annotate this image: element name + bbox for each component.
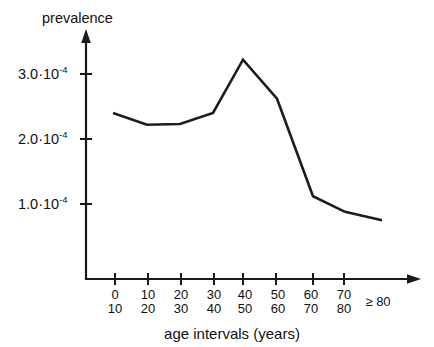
x-tick-labels: 0 10 10 20 20 30 30 40 40 50 50 60 60 70… — [108, 287, 391, 316]
x-tick-label-7-bottom: 80 — [337, 301, 351, 316]
x-tick-label-1-bottom: 20 — [141, 301, 155, 316]
x-tick-label-0-bottom: 10 — [108, 301, 122, 316]
x-tick-label-1-top: 10 — [141, 287, 155, 302]
x-axis — [86, 274, 421, 284]
x-tick-label-0-top: 0 — [111, 287, 118, 302]
x-tick-label-5-bottom: 60 — [271, 301, 285, 316]
x-axis-arrow-icon — [407, 274, 421, 284]
x-tick-label-2-top: 20 — [174, 287, 188, 302]
y-tick-label-1: 1.0·10-4 — [18, 194, 68, 212]
x-tick-label-4-top: 40 — [238, 287, 252, 302]
x-tick-label-3-top: 30 — [207, 287, 221, 302]
x-tick-label-2-bottom: 30 — [174, 301, 188, 316]
prevalence-curve — [113, 60, 382, 221]
x-tick-label-3-bottom: 40 — [207, 301, 221, 316]
x-tick-label-6-bottom: 70 — [304, 301, 318, 316]
prevalence-line-chart: prevalence 3.0·10-4 2.0·10-4 1.0· — [0, 0, 434, 347]
x-tick-label-7-top: 70 — [337, 287, 351, 302]
x-tick-label-6-top: 60 — [304, 287, 318, 302]
y-tick-label-2: 2.0·10-4 — [18, 129, 68, 147]
y-axis — [81, 29, 91, 280]
x-tick-label-4-bottom: 50 — [238, 301, 252, 316]
x-tick-label-8-top: ≥ 80 — [365, 294, 390, 309]
y-tick-label-3: 3.0·10-4 — [18, 64, 68, 82]
y-axis-arrow-icon — [81, 29, 91, 43]
chart-svg: prevalence 3.0·10-4 2.0·10-4 1.0· — [0, 0, 434, 347]
x-tick-label-5-top: 50 — [271, 287, 285, 302]
x-axis-label: age intervals (years) — [164, 325, 300, 342]
y-axis-label: prevalence — [42, 10, 113, 26]
y-tick-labels: 3.0·10-4 2.0·10-4 1.0·10-4 — [18, 64, 68, 212]
